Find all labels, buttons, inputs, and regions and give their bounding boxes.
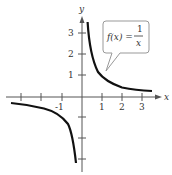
x-axis-label: x: [164, 92, 169, 102]
x-axis-arrow-icon: [155, 95, 162, 100]
y-axis-label: y: [78, 4, 85, 14]
chart: -1 1 2 3 1 2 3 x y f(x) = 1 x: [0, 0, 172, 175]
callout-lhs: f(x) =: [106, 32, 133, 42]
y-tick-label: 3: [68, 28, 74, 38]
callout-numerator: 1: [137, 24, 143, 34]
curve-negative-branch: [11, 103, 76, 163]
y-tick-label: 2: [68, 49, 74, 59]
x-tick-label: -1: [55, 102, 64, 112]
x-tick-label: 1: [99, 102, 105, 112]
x-tick-label: 3: [139, 102, 145, 112]
x-tick-label: 2: [119, 102, 125, 112]
function-callout: f(x) = 1 x: [103, 21, 149, 71]
y-tick-label: 1: [68, 70, 74, 80]
y-axis-arrow-icon: [80, 16, 85, 23]
callout-denominator: x: [136, 38, 141, 48]
